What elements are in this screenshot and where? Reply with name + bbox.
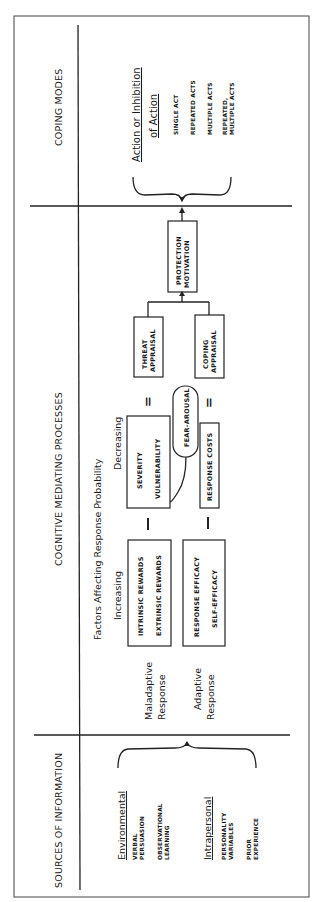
self-efficacy-label: SELF-EFFICACY [211, 570, 219, 628]
section-title-sources: SOURCES OF INFORMATION [53, 753, 64, 888]
sources-brace [118, 743, 256, 768]
response-efficacy-label: RESPONSE EFFICACY [193, 557, 201, 637]
protection-motivation-line1: PROTECTION [175, 236, 183, 285]
adaptive-line2: Response [205, 674, 216, 720]
section-title-coping-modes: COPING MODES [53, 68, 64, 146]
coping-appraisal-line2: APPRAISAL [210, 330, 218, 373]
verbal-persuasion-line2: PERSUASION [139, 816, 145, 860]
header-divider [78, 25, 80, 890]
prior-experience-line1: PRIOR [246, 838, 252, 860]
personality-variables-line1: PERSONALITY [221, 812, 227, 860]
vulnerability-label: VULNERABILITY [154, 439, 162, 499]
threat-appraisal-line2: APPRAISAL [149, 329, 157, 372]
intrapersonal-heading: Intrapersonal [202, 797, 213, 860]
maladaptive-line2: Response [156, 674, 167, 720]
verbal-persuasion-line1: VERBAL [132, 833, 138, 860]
protection-motivation-diagram: COPING MODES COGNITIVE MEDIATING PROCESS… [0, 0, 325, 902]
increasing-label: Increasing [112, 571, 123, 620]
coping-item-multiple-acts: MULTIPLE ACTS [207, 82, 213, 135]
adaptive-line1: Adaptive [192, 668, 203, 710]
personality-variables-line2: VARIABLES [228, 822, 234, 860]
prior-experience-line2: EXPERIENCE [253, 818, 259, 860]
extrinsic-rewards-label: EXTRINSIC REWARDS [155, 555, 163, 636]
response-costs-label: RESPONSE COSTS [206, 432, 214, 501]
fear-arousal-label: FEAR-AROUSAL [183, 388, 191, 447]
coping-item-repeated-multiple-1: REPEATED, [222, 98, 228, 135]
maladaptive-line1: Maladaptive [143, 662, 154, 720]
severity-label: SEVERITY [136, 452, 144, 489]
fear-arousal-connector [169, 457, 186, 503]
observational-learning-line1: OBSERVATIONAL [157, 803, 163, 860]
coping-item-single-act: SINGLE ACT [173, 95, 179, 135]
threat-appraisal-line1: THREAT [141, 339, 149, 369]
factors-heading: Factors Affecting Response Probability [92, 458, 103, 640]
coping-item-repeated-multiple-2: MULTIPLE ACTS [229, 82, 235, 135]
brace-point-icon [179, 197, 185, 202]
arrow-head-up-icon [179, 207, 185, 213]
coping-appraisal-line1: COPING [202, 339, 210, 369]
intrinsic-rewards-label: INTRINSIC REWARDS [137, 556, 145, 636]
observational-learning-line2: LEARNING [164, 825, 170, 860]
environmental-heading: Environmental [116, 791, 127, 860]
brace-point-icon [184, 741, 190, 746]
coping-brace [133, 177, 231, 200]
decreasing-label: Decreasing [112, 417, 123, 470]
equals-sign-threat: = [140, 396, 155, 407]
protection-motivation-line2: MOTIVATION [183, 240, 191, 288]
coping-item-repeated-acts: REPEATED ACTS [190, 80, 196, 135]
rewards-box [128, 540, 171, 646]
coping-heading-line2: of Action [148, 94, 159, 138]
equals-sign-coping: = [201, 397, 216, 408]
section-title-cognitive-mediating: COGNITIVE MEDIATING PROCESSES [53, 392, 64, 566]
severity-vulnerability-box [127, 416, 170, 508]
coping-heading-line1: Action or Inhibition [131, 67, 142, 162]
